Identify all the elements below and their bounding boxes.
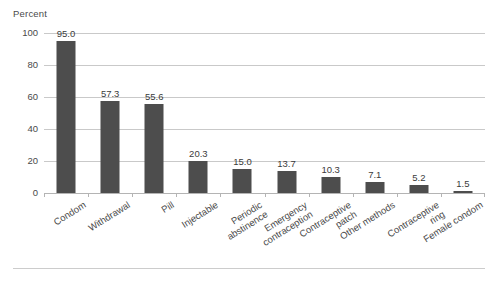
bar-slot: 7.1: [353, 33, 397, 193]
x-axis-tick: [88, 193, 89, 197]
x-axis-tick: [265, 193, 266, 197]
x-axis-tick: [220, 193, 221, 197]
x-axis-category-labels: CondomWithdrawalPillInjectablePeriodicab…: [44, 199, 485, 265]
x-axis-category-label-line1: Pill: [160, 199, 177, 215]
x-axis-ticks: [44, 193, 485, 198]
y-axis-title: Percent: [13, 8, 47, 19]
bar-slot: 13.7: [265, 33, 309, 193]
x-axis-tick: [484, 193, 485, 197]
bar[interactable]: [189, 161, 208, 193]
x-axis-tick: [132, 193, 133, 197]
x-axis-category-label: Pill: [160, 199, 177, 215]
y-axis-tick-label: 0: [10, 188, 38, 198]
x-axis-category-label-line1: Withdrawal: [86, 199, 132, 233]
bar-slot: 1.5: [441, 33, 485, 193]
y-axis-tick-label: 20: [10, 156, 38, 166]
bar-value-label: 55.6: [145, 92, 164, 102]
bar[interactable]: [409, 185, 428, 193]
bar-slot: 20.3: [176, 33, 220, 193]
bar-value-label: 95.0: [57, 29, 76, 39]
footer-divider: [13, 268, 485, 269]
bar-slot: 5.2: [397, 33, 441, 193]
x-axis-category-label-line1: Condom: [52, 199, 88, 227]
x-axis-tick: [176, 193, 177, 197]
bar-value-label: 13.7: [277, 159, 296, 169]
bar[interactable]: [321, 177, 340, 193]
y-axis-tick-label: 60: [10, 92, 38, 102]
x-axis-tick: [44, 193, 45, 197]
x-axis-tick: [397, 193, 398, 197]
bar-slot: 55.6: [132, 33, 176, 193]
bar-chart: Percent 020406080100 95.057.355.620.315.…: [0, 0, 498, 286]
x-axis-category-label: Withdrawal: [86, 199, 132, 233]
y-axis-tick-label: 40: [10, 124, 38, 134]
bar-slot: 15.0: [220, 33, 264, 193]
bar-slot: 95.0: [44, 33, 88, 193]
bar-value-label: 1.5: [456, 179, 469, 189]
bars-layer: 95.057.355.620.315.013.710.37.15.21.5: [44, 33, 485, 193]
x-axis-tick: [441, 193, 442, 197]
x-axis-category-label: Injectable: [180, 199, 220, 230]
bar-value-label: 10.3: [321, 165, 340, 175]
bar[interactable]: [365, 182, 384, 193]
x-axis-tick: [309, 193, 310, 197]
bar[interactable]: [233, 169, 252, 193]
y-axis-tick-label: 100: [10, 28, 38, 38]
y-axis-tick-labels: 020406080100: [10, 33, 38, 193]
bar-value-label: 20.3: [189, 149, 208, 159]
bar[interactable]: [57, 41, 76, 193]
bar-slot: 57.3: [88, 33, 132, 193]
bar-value-label: 5.2: [412, 173, 425, 183]
x-axis-tick: [353, 193, 354, 197]
y-axis-tick-label: 80: [10, 60, 38, 70]
bar[interactable]: [101, 101, 120, 193]
bar-slot: 10.3: [309, 33, 353, 193]
bar-value-label: 57.3: [101, 89, 120, 99]
x-axis-category-label: Condom: [52, 199, 88, 227]
bar[interactable]: [277, 171, 296, 193]
bar[interactable]: [145, 104, 164, 193]
x-axis-category-label-line1: Injectable: [180, 199, 220, 230]
bar-value-label: 7.1: [368, 170, 381, 180]
bar-value-label: 15.0: [233, 157, 252, 167]
